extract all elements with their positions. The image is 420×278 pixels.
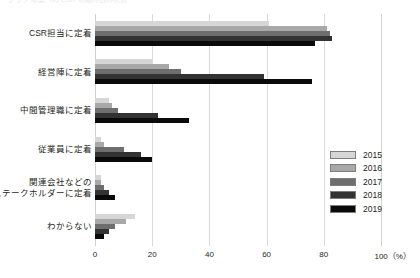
- category-label: CSR担当に定着: [29, 28, 92, 39]
- category-label-line: わからない: [47, 221, 92, 232]
- bar-group: [95, 91, 381, 130]
- legend-label: 2015: [363, 151, 382, 160]
- legend-swatch: [330, 164, 356, 172]
- legend-label: 2018: [363, 191, 382, 200]
- category-label: 中間管理職に定着: [20, 105, 92, 116]
- category-label: 従業員に定着: [38, 144, 92, 155]
- category-label-line: 経営陣に定着: [38, 67, 92, 78]
- category-label-line: ステークホルダーに定着: [0, 188, 92, 199]
- bar-group-inner: [95, 98, 381, 123]
- bar: [95, 41, 315, 46]
- x-tick-label: 40: [205, 250, 214, 259]
- legend-swatch: [330, 205, 356, 213]
- legend-label: 2019: [363, 205, 382, 214]
- category-label-line: CSR担当に定着: [29, 28, 92, 39]
- x-tick-label: 0: [93, 250, 97, 259]
- bar: [95, 234, 104, 239]
- bar-group: [95, 53, 381, 92]
- x-tick-label: 60: [262, 250, 271, 259]
- bar: [95, 195, 115, 200]
- legend: 20152016201720182019: [330, 148, 408, 216]
- legend-swatch: [330, 178, 356, 186]
- category-label: 経営陣に定着: [38, 67, 92, 78]
- bar-group-inner: [95, 214, 381, 239]
- bar: [95, 157, 152, 162]
- category-label-line: 従業員に定着: [38, 144, 92, 155]
- clipped-top-text: グラフ 本業への CSR の組み込み状況: [8, 0, 308, 4]
- x-tick-label: 20: [148, 250, 157, 259]
- bar-group: [95, 14, 381, 53]
- legend-item: 2016: [330, 162, 408, 176]
- value-axis: 020406080100（%）: [95, 246, 381, 264]
- legend-swatch: [330, 191, 356, 199]
- bar: [95, 79, 312, 84]
- legend-label: 2017: [363, 178, 382, 187]
- x-tick-label: 100（%）: [374, 250, 410, 261]
- bar-chart: グラフ 本業への CSR の組み込み状況 CSR担当に定着経営陣に定着中間管理職…: [0, 0, 420, 278]
- bar-group-inner: [95, 59, 381, 84]
- category-label: わからない: [47, 221, 92, 232]
- category-label-line: 中間管理職に定着: [20, 105, 92, 116]
- category-label: 関連会社などのステークホルダーに定着: [0, 177, 92, 199]
- x-tick-label: 80: [319, 250, 328, 259]
- legend-item: 2015: [330, 148, 408, 162]
- bar-group-inner: [95, 21, 381, 46]
- legend-item: 2019: [330, 202, 408, 216]
- bar: [95, 118, 189, 123]
- legend-swatch: [330, 151, 356, 159]
- legend-label: 2016: [363, 164, 382, 173]
- legend-item: 2017: [330, 175, 408, 189]
- category-label-line: 関連会社などの: [0, 177, 92, 188]
- legend-item: 2018: [330, 189, 408, 203]
